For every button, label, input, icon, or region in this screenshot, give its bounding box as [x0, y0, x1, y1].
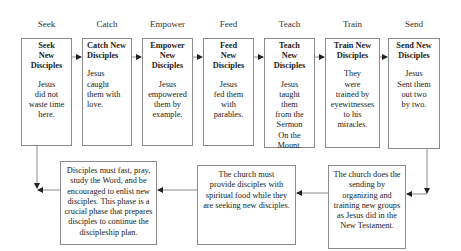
phase-box-train: Train New Disciples They were trained by… [325, 38, 380, 148]
phase-box-empower: Empower New Disciples Jesus empowered th… [142, 38, 193, 146]
phase-title: Empower New Disciples [145, 41, 190, 72]
phase-label-seek: Seek [21, 19, 72, 29]
phase-box-catch: Catch New Disciples Jesus caught them wi… [82, 38, 132, 146]
phase-title: Send New Disciples [391, 41, 437, 61]
phase-box-feed: Feed New Disciples Jesus fed them with p… [203, 38, 254, 146]
phase-body: Jesus did not waste time here. [24, 80, 69, 121]
phase-body: Jesus fed them with parables. [206, 80, 251, 121]
phase-label-catch: Catch [82, 19, 132, 29]
phase-body: Jesus Sent them out two by two. [391, 69, 437, 110]
phase-title: Seek New Disciples [24, 41, 69, 72]
phase-title: Feed New Disciples [206, 41, 251, 72]
phase-label-empower: Empower [142, 19, 193, 29]
phase-label-send: Send [388, 19, 440, 29]
phase-label-feed: Feed [203, 19, 254, 29]
phase-body: They were trained by eyewitnesses to his… [328, 69, 377, 130]
phase-body: Jesus empowered them by example. [145, 80, 190, 121]
phase-label-teach: Teach [264, 19, 315, 29]
bottom-box-seek-support: Disciples must fast, pray, study the Wor… [60, 161, 157, 245]
phase-box-send: Send New Disciples Jesus Sent them out t… [388, 38, 440, 149]
phase-box-teach: Teach New Disciples Jesus taught them fr… [264, 38, 315, 148]
bottom-box-send-support: The church does the sending by organizin… [328, 165, 406, 249]
phase-title: Teach New Disciples [267, 41, 312, 72]
phase-label-train: Train [325, 19, 380, 29]
phase-box-seek: Seek New Disciples Jesus did not waste t… [21, 38, 72, 146]
phase-title: Train New Disciples [328, 41, 377, 61]
phase-body: Jesus taught them from the Sermon On the… [267, 80, 312, 151]
phase-title: Catch New Disciples [87, 41, 129, 61]
bottom-box-feed-support: The church must provide disciples with s… [197, 165, 296, 245]
phase-body: Jesus caught them with love. [87, 69, 129, 110]
